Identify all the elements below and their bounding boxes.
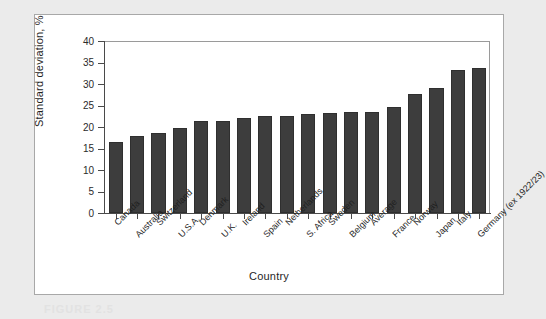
x-tick-label: U.K. <box>220 221 239 240</box>
y-tick-label: 35 <box>83 58 94 68</box>
y-tick-mark <box>98 84 104 85</box>
x-axis-tick <box>437 214 438 219</box>
y-tick-label: 20 <box>83 123 94 133</box>
figure-frame: Standard deviation, % 0510152025303540 C… <box>34 14 504 295</box>
x-axis-tick <box>223 214 224 219</box>
y-axis-title: Standard deviation, % <box>33 15 45 127</box>
y-tick-mark <box>98 170 104 171</box>
x-axis-tick <box>479 214 480 219</box>
bar <box>451 70 465 213</box>
y-axis-tick: 5 <box>98 192 104 193</box>
bar <box>280 116 294 213</box>
x-axis-tick <box>308 214 309 219</box>
y-tick-mark <box>98 127 104 128</box>
y-tick-label: 5 <box>88 187 94 197</box>
x-axis-tick <box>351 214 352 219</box>
bar <box>194 121 208 213</box>
y-tick-mark <box>98 192 104 193</box>
y-axis-tick: 20 <box>98 127 104 128</box>
y-tick-mark <box>98 106 104 107</box>
y-axis-tick: 15 <box>98 149 104 150</box>
x-axis-tick <box>394 214 395 219</box>
y-tick-label: 40 <box>83 37 94 47</box>
y-axis-tick: 25 <box>98 106 104 107</box>
y-tick-label: 25 <box>83 101 94 111</box>
bar <box>109 142 123 213</box>
bar <box>151 133 165 213</box>
y-tick-label: 10 <box>83 166 94 176</box>
y-tick-mark <box>98 213 104 214</box>
y-tick-label: 0 <box>88 209 94 219</box>
bar <box>323 113 337 213</box>
y-tick-mark <box>98 41 104 42</box>
bar <box>387 107 401 213</box>
x-axis-title: Country <box>35 270 503 282</box>
bar <box>237 118 251 213</box>
bar <box>472 68 486 213</box>
bar <box>408 94 422 213</box>
x-axis-tick <box>180 214 181 219</box>
y-tick-mark <box>98 149 104 150</box>
y-axis-tick: 0 <box>98 213 104 214</box>
y-axis-tick: 10 <box>98 170 104 171</box>
bar <box>429 88 443 213</box>
x-tick-label: Spain <box>262 217 285 240</box>
bar-series <box>105 41 490 213</box>
y-tick-label: 15 <box>83 144 94 154</box>
y-tick-mark <box>98 63 104 64</box>
bar <box>258 116 272 213</box>
figure-caption: FIGURE 2.5 <box>44 303 114 315</box>
x-axis-tick <box>265 214 266 219</box>
y-tick-label: 30 <box>83 80 94 90</box>
x-axis-tick <box>137 214 138 219</box>
y-axis-tick: 30 <box>98 84 104 85</box>
y-axis-tick: 35 <box>98 63 104 64</box>
bar <box>344 112 358 213</box>
y-axis-tick: 40 <box>98 41 104 42</box>
bar <box>365 112 379 213</box>
